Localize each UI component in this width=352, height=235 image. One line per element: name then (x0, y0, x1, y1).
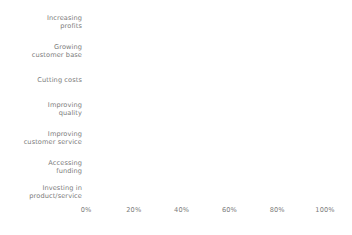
x-tick-3: 60% (222, 206, 237, 215)
x-tick-2: 40% (174, 206, 189, 215)
x-tick-4: 80% (270, 206, 285, 215)
category-label-6: Investing in product/service (10, 182, 82, 202)
x-tick-0: 0% (81, 206, 92, 215)
category-label-0: Increasing profits (10, 12, 82, 32)
category-label-2: Cutting costs (10, 70, 82, 90)
category-label-3: Improving quality (10, 99, 82, 119)
bar-chart: Increasing profits Growing customer base… (0, 0, 352, 235)
x-axis: 0% 20% 40% 60% 80% 100% (86, 206, 325, 220)
category-label-5: Accessing funding (10, 157, 82, 177)
category-label-4: Improving customer service (10, 128, 82, 148)
plot-area (86, 12, 325, 202)
x-tick-5: 100% (315, 206, 334, 215)
x-tick-1: 20% (126, 206, 141, 215)
category-label-1: Growing customer base (10, 41, 82, 61)
